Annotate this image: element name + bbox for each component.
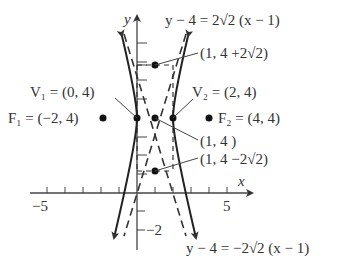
- focus-f2-point: [206, 115, 213, 122]
- asymptote-bottom-label: y − 4 = −2√2 (x − 1): [186, 240, 309, 257]
- v2-label: V₂ = (2, 4): [192, 84, 257, 101]
- y-tick-label-neg2: −2: [146, 222, 162, 238]
- f2-label: F₂ = (4, 4): [218, 110, 280, 127]
- box-bottom-label: (1, 4 −2√2): [200, 151, 268, 168]
- box-top-label: (1, 4 +2√2): [200, 45, 268, 62]
- y-axis-label: y: [122, 11, 131, 27]
- leader-lines: [115, 53, 198, 171]
- x-axis: x −5 5: [30, 173, 252, 214]
- x-tick-label-neg5: −5: [32, 198, 48, 214]
- focus-f1-point: [100, 115, 107, 122]
- v1-label: V₁ = (0, 4): [30, 84, 95, 101]
- f1-label: F₁ = (−2, 4): [8, 110, 78, 127]
- center-label: (1, 4 ): [200, 133, 236, 150]
- x-axis-label: x: [237, 173, 245, 189]
- x-tick-label-5: 5: [223, 198, 231, 214]
- hyperbola-diagram: x −5 5 y −2: [0, 0, 338, 276]
- asymptote-top-label: y − 4 = 2√2 (x − 1): [165, 12, 280, 29]
